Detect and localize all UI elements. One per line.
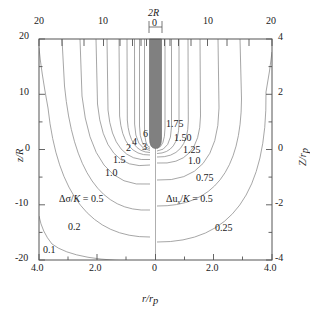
contour-label-left-2: 2 — [126, 143, 131, 153]
top-axis-tick-2: 0 — [152, 18, 157, 28]
pile-shape — [150, 39, 162, 149]
right-axis-tick-neg2: -2 — [275, 198, 283, 208]
bottom-axis-tick-3: 2.0 — [206, 263, 219, 273]
bottom-axis-tick-0: 4.0 — [31, 263, 44, 273]
right-panel-quantity-label: Δus/K = 0.5 — [166, 194, 213, 204]
right-axis-title: Z/rp — [293, 148, 309, 166]
left-panel-quantity-label: Δσ/K = 0.5 — [59, 194, 103, 204]
right-quantity-value: = 0.5 — [190, 193, 213, 204]
right-axis-title-slash: / — [297, 157, 308, 160]
bottom-axis-tick-1: 2.0 — [89, 263, 102, 273]
bottom-axis-title-den-sub: p — [153, 295, 158, 306]
contour-label-right-1p75: 1.75 — [166, 119, 184, 129]
left-axis-tick-neg10: -10 — [15, 198, 28, 208]
top-axis-tick-4: 20 — [266, 16, 276, 26]
left-axis-title-num: z — [14, 158, 25, 162]
contour-label-left-6: 6 — [143, 129, 148, 139]
right-axis-tick-0: 0 — [278, 143, 283, 153]
contour-label-left-1p0: 1.0 — [105, 168, 118, 178]
bottom-axis-title: r/rp — [142, 289, 158, 305]
contour-label-left-4: 4 — [132, 137, 137, 147]
right-axis-tick-4: 4 — [278, 32, 283, 42]
left-axis-title-slash: / — [14, 155, 25, 158]
bottom-axis-tick-2: 0 — [152, 263, 157, 273]
right-quantity-K: K — [183, 193, 190, 204]
contour-label-left-0p1: 0.1 — [43, 245, 56, 255]
contour-label-left-3: 3 — [142, 142, 147, 152]
left-axis-tick-20: 20 — [19, 31, 29, 41]
left-quantity-prefix: Δσ/ — [59, 193, 74, 204]
figure-container: 2R 20 10 0 10 20 20 10 0 -10 -20 4 2 0 -… — [0, 0, 310, 311]
top-axis-tick-0: 20 — [34, 16, 44, 26]
left-axis-tick-neg20: -20 — [15, 253, 28, 263]
right-axis-title-den: r — [297, 153, 308, 157]
contour-line — [62, 39, 150, 210]
top-axis-tick-1: 10 — [98, 16, 108, 26]
right-quantity-subscript: s — [177, 198, 180, 206]
contour-line — [157, 52, 272, 242]
contour-line — [39, 216, 150, 261]
left-axis-title: z/R — [10, 149, 26, 162]
contour-label-right-1p0: 1.0 — [188, 156, 201, 166]
left-quantity-value: = 0.5 — [80, 193, 103, 204]
top-axis-tick-3: 10 — [203, 16, 213, 26]
contour-label-right-1p25: 1.25 — [183, 145, 201, 155]
left-axis-title-den: R — [14, 149, 25, 155]
right-quantity-prefix: Δu — [166, 193, 177, 204]
contour-label-right-1p50: 1.50 — [174, 133, 192, 143]
contour-label-right-0p25: 0.25 — [215, 223, 233, 233]
contour-label-left-1p5: 1.5 — [113, 155, 126, 165]
left-contour-group — [39, 39, 150, 261]
bottom-axis-tick-4: 4.0 — [264, 263, 277, 273]
right-axis-tick-2: 2 — [278, 87, 283, 97]
right-axis-title-den-sub: p — [299, 148, 310, 153]
contour-label-right-0p75: 0.75 — [196, 173, 214, 183]
left-axis-tick-10: 10 — [19, 87, 29, 97]
right-axis-title-num: Z — [297, 160, 308, 166]
bottom-axis-ticks — [39, 254, 272, 260]
contour-label-left-0p2: 0.2 — [68, 222, 81, 232]
